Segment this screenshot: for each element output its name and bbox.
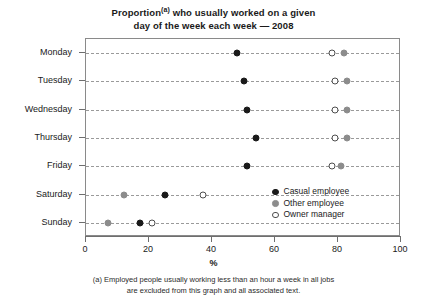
data-point-marker — [105, 219, 112, 226]
data-point-marker — [149, 219, 156, 226]
x-axis-tick-label: 100 — [392, 244, 407, 254]
data-point-marker — [331, 106, 338, 113]
footnote-line-2: are excluded from this graph and all ass… — [0, 285, 427, 296]
x-axis-tick-mark — [274, 236, 275, 242]
legend-swatch-icon — [272, 212, 279, 219]
footnote-marker-superscript: (a) — [161, 6, 170, 13]
y-axis-tick-label: Friday — [47, 160, 72, 170]
y-axis-tick-label: Monday — [40, 47, 72, 57]
y-axis-tick-label: Thursday — [34, 132, 72, 142]
gridline-dashed — [86, 223, 399, 224]
x-axis-tick-label: 20 — [143, 244, 153, 254]
data-point-marker — [199, 191, 206, 198]
x-axis-tick-mark — [211, 236, 212, 242]
gridline-dashed — [86, 138, 399, 139]
data-point-marker — [328, 163, 335, 170]
title-line-1: Proportion(a) who usually worked on a gi… — [0, 6, 427, 19]
legend-item-label: Casual employee — [284, 186, 350, 198]
data-point-marker — [253, 135, 260, 142]
legend-item: Owner manager — [272, 209, 349, 221]
data-point-marker — [161, 191, 168, 198]
data-point-marker — [243, 163, 250, 170]
legend-swatch-icon — [272, 189, 279, 196]
x-axis-tick-mark — [337, 236, 338, 242]
data-point-marker — [344, 78, 351, 85]
y-axis-tick-label: Saturday — [36, 189, 72, 199]
data-point-marker — [344, 106, 351, 113]
legend-swatch-icon — [272, 200, 279, 207]
gridline-dashed — [86, 195, 399, 196]
data-point-marker — [331, 135, 338, 142]
x-axis-tick-label: 60 — [269, 244, 279, 254]
x-axis-tick-label: 40 — [206, 244, 216, 254]
data-point-marker — [136, 219, 143, 226]
x-axis-tick-mark — [400, 236, 401, 242]
data-point-marker — [240, 78, 247, 85]
page-title: Proportion(a) who usually worked on a gi… — [0, 6, 427, 32]
x-axis-tick-label: 80 — [332, 244, 342, 254]
x-axis: 020406080100 — [85, 236, 400, 237]
legend-item: Other employee — [272, 198, 349, 210]
y-axis-tick-label: Sunday — [41, 217, 72, 227]
footnote: (a) Employed people usually working less… — [0, 274, 427, 296]
y-axis-tick-label: Wednesday — [25, 104, 72, 114]
footnote-line-1: (a) Employed people usually working less… — [0, 274, 427, 285]
legend-item: Casual employee — [272, 186, 349, 198]
gridline-dashed — [86, 53, 399, 54]
x-axis-title: % — [0, 258, 427, 268]
title-text-after-superscript: who usually worked on a given — [170, 7, 316, 18]
data-point-marker — [331, 78, 338, 85]
data-point-marker — [328, 50, 335, 57]
title-line-2: day of the week each week — 2008 — [0, 19, 427, 32]
data-point-marker — [341, 50, 348, 57]
data-point-marker — [243, 106, 250, 113]
legend-item-label: Other employee — [284, 198, 344, 210]
legend-item-label: Owner manager — [284, 209, 345, 221]
data-point-marker — [344, 135, 351, 142]
data-point-marker — [338, 163, 345, 170]
plot-area — [85, 38, 400, 236]
chart-legend: Casual employeeOther employeeOwner manag… — [272, 186, 349, 221]
x-axis-tick-mark — [85, 236, 86, 242]
y-axis-category-labels: MondayTuesdayWednesdayThursdayFridaySatu… — [0, 38, 80, 236]
y-axis-tick-label: Tuesday — [38, 75, 72, 85]
title-text-before-superscript: Proportion — [112, 7, 162, 18]
x-axis-tick-mark — [148, 236, 149, 242]
data-point-marker — [234, 50, 241, 57]
x-axis-tick-label: 0 — [82, 244, 87, 254]
data-point-marker — [120, 191, 127, 198]
